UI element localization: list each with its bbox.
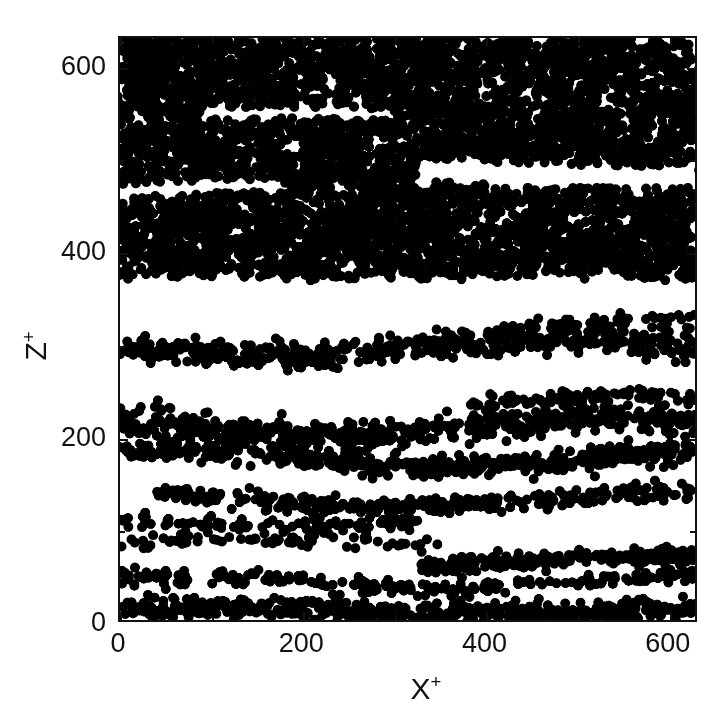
x-axis-tick-mirror [670,38,672,46]
scatter-points-layer [120,38,695,620]
y-axis-minor-tick-mirror [690,160,695,162]
x-axis-minor-tick [395,615,397,620]
x-axis-title: X+ [0,672,727,706]
x-tick-label: 600 [645,628,690,659]
y-tick-label: 200 [61,421,106,452]
x-axis-minor-tick-mirror [578,38,580,43]
y-tick-label: 600 [61,50,106,81]
x-axis-tick-mirror [303,38,305,46]
x-axis-minor-tick [212,615,214,620]
x-axis-tick-mirror [120,38,122,46]
y-axis-minor-tick [120,531,125,533]
y-axis-title: Z+ [19,296,53,396]
x-axis-minor-tick [578,615,580,620]
y-axis-tick [120,68,128,70]
y-axis-minor-tick [120,160,125,162]
x-tick-label: 400 [462,628,507,659]
y-axis-minor-tick-mirror [690,346,695,348]
x-axis-tick-mirror [486,38,488,46]
y-axis-tick [120,439,128,441]
x-axis-minor-tick-mirror [212,38,214,43]
x-axis-minor-tick-mirror [395,38,397,43]
x-tick-label: 200 [279,628,324,659]
x-axis-tick [303,612,305,620]
y-axis-minor-tick [120,346,125,348]
y-tick-label: 0 [91,607,106,638]
y-axis-minor-tick-mirror [690,531,695,533]
x-axis-tick-labels: 0200400600 [118,628,697,668]
x-axis-tick [486,612,488,620]
x-axis-title-superscript: + [431,671,442,692]
y-axis-tick [120,253,128,255]
y-axis-tick-mirror [687,68,695,70]
y-axis-tick-mirror [687,439,695,441]
x-axis-title-base: X [411,672,431,705]
x-axis-tick [120,612,122,620]
x-tick-label: 0 [110,628,125,659]
y-axis-title-superscript: + [18,331,39,342]
x-axis-tick [670,612,672,620]
y-axis-title-base: Z [19,342,52,360]
scatter-figure: 0200400600 0200400600 X+ Z+ [0,0,727,716]
plot-area [118,36,697,622]
y-axis-tick-mirror [687,253,695,255]
y-tick-label: 400 [61,236,106,267]
